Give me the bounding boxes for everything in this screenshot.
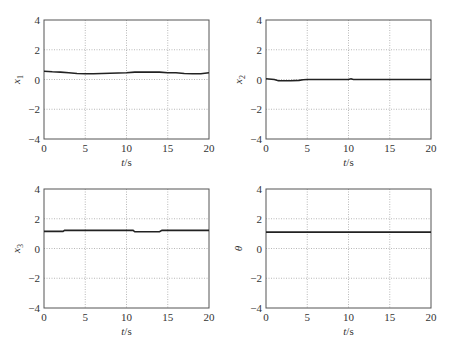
- x-tick-label: 5: [83, 142, 89, 154]
- y-tick-label: −2: [250, 103, 262, 115]
- y-tick-label: −4: [28, 133, 40, 145]
- y-tick-label: 2: [257, 213, 263, 225]
- x-tick-label: 10: [121, 142, 133, 154]
- x-tick-label: 0: [41, 311, 47, 323]
- grid: [266, 189, 431, 308]
- x-tick-label: 0: [263, 142, 269, 154]
- data-line: [44, 71, 209, 74]
- y-tick-label: 4: [35, 183, 41, 195]
- subplot-theta: 05101520420−2−4t/sθ: [232, 183, 437, 337]
- x-tick-label: 15: [384, 311, 396, 323]
- y-tick-label: 0: [35, 243, 41, 255]
- x-tick-label: 20: [204, 311, 216, 323]
- y-tick-label: 4: [257, 183, 263, 195]
- x-tick-label: 5: [305, 311, 311, 323]
- grid: [44, 20, 209, 139]
- x-axis-label: t/s: [121, 156, 131, 168]
- x-tick-label: 15: [162, 311, 174, 323]
- y-tick-label: −2: [28, 272, 40, 284]
- y-tick-label: −4: [28, 302, 40, 314]
- subplot-x2: 05101520420−2−4t/sx2: [232, 14, 437, 168]
- x-axis-label: t/s: [343, 156, 353, 168]
- subplot-x1: 05101520420−2−4t/sx1: [10, 14, 215, 168]
- x-axis-label: t/s: [121, 325, 131, 337]
- x-axis-label: t/s: [343, 325, 353, 337]
- x-tick-label: 0: [41, 142, 47, 154]
- y-axis-label: x3: [10, 244, 25, 254]
- subplot-x3: 05101520420−2−4t/sx3: [10, 183, 215, 337]
- x-tick-label: 20: [426, 311, 438, 323]
- y-tick-label: 0: [257, 243, 263, 255]
- y-tick-label: 2: [35, 44, 41, 56]
- y-tick-label: −2: [28, 103, 40, 115]
- x-tick-label: 10: [343, 142, 355, 154]
- grid: [44, 189, 209, 308]
- figure: 05101520420−2−4t/sx105101520420−2−4t/sx2…: [0, 0, 449, 349]
- y-axis-label: x1: [10, 75, 25, 85]
- x-tick-label: 5: [305, 142, 311, 154]
- y-axis-label: x2: [232, 75, 247, 85]
- y-tick-label: −2: [250, 272, 262, 284]
- x-tick-label: 10: [121, 311, 133, 323]
- x-tick-label: 0: [263, 311, 269, 323]
- x-tick-label: 5: [83, 311, 89, 323]
- y-tick-label: 2: [257, 44, 263, 56]
- y-tick-label: 0: [257, 74, 263, 86]
- y-tick-label: 0: [35, 74, 41, 86]
- y-axis-label: θ: [232, 245, 244, 251]
- y-tick-label: 4: [35, 14, 41, 26]
- x-tick-label: 20: [204, 142, 216, 154]
- y-tick-label: −4: [250, 133, 262, 145]
- y-tick-label: 4: [257, 14, 263, 26]
- x-tick-label: 15: [162, 142, 174, 154]
- y-tick-label: 2: [35, 213, 41, 225]
- y-tick-label: −4: [250, 302, 262, 314]
- x-tick-label: 10: [343, 311, 355, 323]
- x-tick-label: 15: [384, 142, 396, 154]
- x-tick-label: 20: [426, 142, 438, 154]
